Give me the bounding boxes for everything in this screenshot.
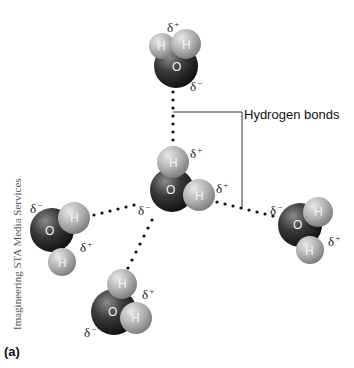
svg-text:O: O [293, 218, 302, 232]
svg-text:H: H [182, 38, 191, 52]
hydrogen-bonds-label: Hydrogen bonds [244, 107, 339, 122]
svg-text:H: H [314, 205, 323, 219]
svg-text:H: H [70, 211, 79, 225]
svg-text:O: O [108, 305, 117, 319]
charge-label-bottom-positive: δ+ [142, 287, 154, 301]
charge-label-top-positive: δ+ [167, 20, 179, 34]
svg-text:O: O [45, 224, 54, 238]
svg-text:H: H [195, 189, 204, 203]
charge-label-right-positive: δ+ [328, 234, 340, 248]
charge-label-center-positive-1: δ+ [190, 146, 202, 160]
charge-label-left-negative: δ− [30, 201, 42, 215]
panel-label: (a) [4, 344, 20, 359]
svg-text:H: H [169, 156, 178, 170]
svg-text:O: O [166, 183, 175, 197]
diagram-graphics: O H H O H H O H H O H H [0, 0, 354, 368]
water-molecule-bottom: O H H [91, 269, 152, 335]
charge-label-top-negative: δ− [190, 79, 202, 93]
charge-label-center-positive-2: δ+ [216, 181, 228, 195]
water-molecule-center: O H H [150, 146, 215, 212]
svg-text:H: H [118, 277, 127, 291]
charge-label-left-positive: δ+ [80, 240, 92, 254]
water-molecule-right: O H H [278, 197, 333, 264]
svg-text:H: H [131, 311, 140, 325]
svg-text:O: O [172, 60, 181, 74]
image-credit: Imagineering STA Media Services [11, 178, 23, 330]
svg-text:H: H [58, 256, 67, 270]
charge-label-center-negative: δ− [138, 203, 150, 217]
charge-label-right-negative: δ− [270, 203, 282, 217]
charge-label-bottom-negative: δ− [84, 325, 96, 339]
svg-text:H: H [157, 39, 166, 53]
water-hydrogen-bond-diagram: O H H O H H O H H O H H [0, 0, 354, 368]
svg-text:H: H [305, 244, 314, 258]
